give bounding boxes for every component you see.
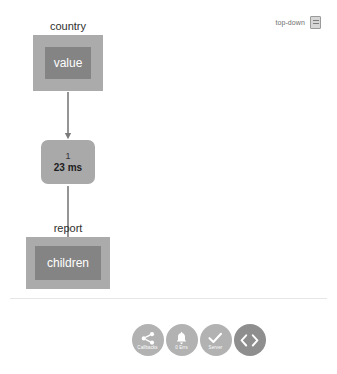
bell-icon: [175, 332, 188, 345]
app-root: top-down country value 1: [0, 0, 337, 374]
node-country-caption: country: [33, 20, 103, 33]
node-report-inner[interactable]: children: [35, 246, 101, 280]
node-timing[interactable]: 1 23 ms: [41, 140, 95, 184]
section-divider: [10, 298, 327, 299]
check-icon: [208, 332, 223, 345]
graph-canvas[interactable]: country value 1 23 ms report children: [0, 0, 337, 300]
node-report-inner-label: children: [47, 256, 89, 270]
node-country-inner-label: value: [54, 56, 83, 70]
node-timing-count: 1: [65, 151, 70, 162]
callbacks-button-label: Callbacks: [137, 345, 157, 350]
node-country-inner[interactable]: value: [45, 47, 91, 79]
node-report-caption: report: [26, 222, 110, 235]
errors-button[interactable]: 0 Errs: [166, 324, 198, 356]
node-timing-duration: 23 ms: [54, 162, 82, 174]
share-icon: [141, 332, 155, 345]
node-timing-pill[interactable]: 1 23 ms: [41, 140, 95, 184]
errors-button-label: 0 Errs: [175, 345, 188, 350]
callbacks-button[interactable]: Callbacks: [132, 324, 164, 356]
bottom-toolbar: Callbacks 0 Errs Server: [0, 318, 337, 362]
node-country-frame[interactable]: value: [33, 35, 103, 91]
node-report[interactable]: report children: [26, 222, 110, 289]
code-button[interactable]: [234, 324, 266, 356]
code-brackets-icon: [240, 334, 259, 347]
server-button[interactable]: Server: [200, 324, 232, 356]
node-report-frame[interactable]: children: [26, 237, 110, 289]
node-country[interactable]: country value: [33, 20, 103, 91]
server-button-label: Server: [209, 345, 223, 350]
